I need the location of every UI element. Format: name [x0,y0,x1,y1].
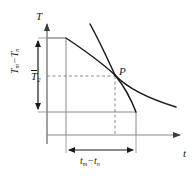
horizontal-span-label: tm−tn [80,156,100,167]
vertical-span-term2: T [9,52,20,58]
vertical-span-term2-subscript: n [13,49,20,52]
mean-temperature-subscript: 2 [37,76,40,83]
dashed-reference-lines [47,76,116,135]
y-axis-label: T [36,11,42,22]
vertical-span-minus: − [9,57,20,64]
x-axis-label: t [183,148,186,159]
vertical-span-label: Tm−Tn [10,33,21,89]
horizontal-span-minus: − [87,155,94,166]
span-arrow-group [38,38,136,153]
mean-temperature-label: T2 [31,70,41,84]
vertical-span-term1-subscript: m [13,64,20,68]
temperature-time-diagram: T t P T2 Tm−Tn tm−tn [0,0,196,183]
vertical-span-term1: T [9,69,20,75]
horizontal-span-term2-subscript: n [97,160,100,167]
intersection-point-marker [114,74,116,76]
axis-group [47,24,180,144]
intersection-point-label: P [119,66,126,77]
